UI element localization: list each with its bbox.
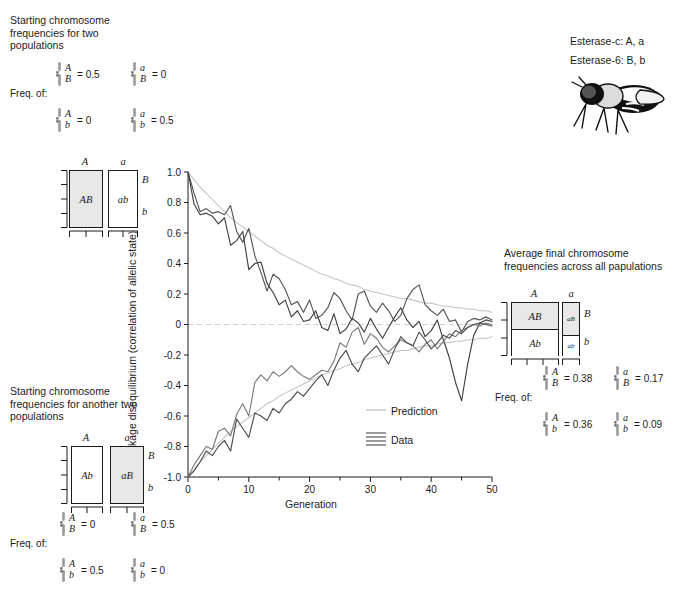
x-tick-label: 0 bbox=[185, 484, 191, 495]
allele-pair: A b bbox=[69, 559, 75, 581]
right-caption: Average final chromosome frequencies acr… bbox=[504, 247, 664, 272]
box-cell-ab: ab bbox=[563, 336, 579, 356]
chromosome-icon bbox=[614, 412, 621, 436]
allele-bottom: b bbox=[140, 570, 145, 581]
freq-value: = 0.5 bbox=[81, 565, 104, 576]
box-cell-aB: aB bbox=[110, 446, 144, 504]
y-tick-label: -0.4 bbox=[164, 380, 182, 391]
chromosome-icon bbox=[131, 558, 138, 582]
allele-pair: a B bbox=[623, 367, 629, 389]
freq-entry-aB-right: a B = 0.17 bbox=[614, 366, 663, 390]
freq-value: = 0.17 bbox=[635, 373, 663, 384]
allele-pair: a b bbox=[623, 413, 628, 435]
series-line bbox=[188, 323, 492, 477]
freq-entry-aB-bottom: a B = 0.5 bbox=[131, 512, 175, 536]
bottom-left-box-diagram: A a Ab aB B b bbox=[60, 432, 160, 518]
y-tick-label: 0 bbox=[175, 319, 181, 330]
bottom-left-freq-label: Freq. of: bbox=[10, 538, 47, 549]
allele-bottom: B bbox=[69, 524, 75, 535]
y-axis-title-text: Linkage disequilibrium (correlation of a… bbox=[126, 231, 138, 460]
series-line bbox=[188, 323, 492, 477]
box-col-header-a: a bbox=[110, 432, 144, 443]
allele-bottom: b bbox=[623, 424, 628, 435]
box-row-label-B: B bbox=[148, 450, 154, 461]
y-scale-ticks bbox=[60, 446, 68, 504]
y-scale-ticks bbox=[500, 302, 508, 356]
box-col-header-A: A bbox=[70, 432, 102, 443]
box-cell-label: aB bbox=[111, 447, 143, 503]
allele-bottom: B bbox=[140, 524, 146, 535]
series-line bbox=[188, 172, 492, 332]
allele-pair: A b bbox=[552, 413, 558, 435]
box-row-label-B: B bbox=[584, 308, 590, 319]
box-cell-Ab: Ab bbox=[71, 446, 103, 504]
chromosome-icon bbox=[60, 558, 67, 582]
freq-value: = 0.5 bbox=[152, 519, 175, 530]
freq-value: = 0 bbox=[151, 565, 165, 576]
bottom-left-caption: Starting chromosome frequencies for anot… bbox=[10, 385, 150, 423]
legend-label-data: Data bbox=[391, 434, 413, 446]
x-tick-label: 20 bbox=[304, 484, 316, 495]
box-column-a: aB ab bbox=[562, 302, 580, 356]
box-row-label-b: b bbox=[584, 336, 589, 347]
y-tick-label: 0.2 bbox=[167, 289, 181, 300]
right-freq-label: Freq. of: bbox=[495, 392, 532, 403]
x-axis-title: Generation bbox=[285, 498, 337, 510]
allele-bottom: B bbox=[552, 378, 558, 389]
allele-pair: A B bbox=[552, 367, 558, 389]
allele-pair: A B bbox=[69, 513, 75, 535]
chromosome-icon bbox=[614, 366, 621, 390]
box-col-header-a: a bbox=[562, 288, 580, 299]
y-tick-label: 1.0 bbox=[167, 167, 181, 178]
x-axis-title-text: Generation bbox=[285, 498, 337, 510]
freq-value: = 0.38 bbox=[564, 373, 592, 384]
x-scale-ticks bbox=[511, 358, 583, 366]
freq-entry-AB-bottom: A B = 0 bbox=[60, 512, 95, 536]
freq-entry-Ab-bottom: A b = 0.5 bbox=[60, 558, 104, 582]
box-cell-aB: aB bbox=[563, 303, 579, 336]
chromosome-icon bbox=[60, 512, 67, 536]
freq-value: = 0.36 bbox=[564, 419, 592, 430]
series-line bbox=[188, 172, 492, 401]
freq-entry-ab-right: a b = 0.09 bbox=[614, 412, 662, 436]
x-tick-label: 30 bbox=[365, 484, 377, 495]
y-tick-label: -0.2 bbox=[164, 350, 182, 361]
y-tick-label: -0.6 bbox=[164, 411, 182, 422]
freq-value: = 0.09 bbox=[634, 419, 662, 430]
chromosome-icon bbox=[543, 412, 550, 436]
box-row-label-b: b bbox=[148, 482, 153, 493]
chromosome-icon bbox=[543, 366, 550, 390]
allele-pair: a B bbox=[140, 513, 146, 535]
y-tick-label: -0.8 bbox=[164, 441, 182, 452]
freq-entry-ab-bottom: a b = 0 bbox=[131, 558, 165, 582]
y-tick-label: 0.8 bbox=[167, 197, 181, 208]
freq-entry-AB-right: A B = 0.38 bbox=[543, 366, 592, 390]
chromosome-icon bbox=[131, 512, 138, 536]
x-tick-label: 50 bbox=[486, 484, 498, 495]
series-line bbox=[188, 172, 492, 312]
allele-pair: a b bbox=[140, 559, 145, 581]
box-col-header-A: A bbox=[510, 288, 558, 299]
x-tick-label: 40 bbox=[426, 484, 438, 495]
box-column-A: AB Ab bbox=[511, 302, 559, 356]
y-axis-title: Linkage disequilibrium (correlation of a… bbox=[126, 231, 138, 460]
box-cell-label: Ab bbox=[72, 447, 102, 503]
x-tick-label: 10 bbox=[243, 484, 255, 495]
box-cell-Ab: Ab bbox=[512, 330, 558, 356]
allele-bottom: b bbox=[69, 570, 75, 581]
y-tick-label: 0.4 bbox=[167, 258, 181, 269]
freq-entry-Ab-right: A b = 0.36 bbox=[543, 412, 592, 436]
figure-root: Starting chromosome frequencies for two … bbox=[0, 0, 673, 607]
y-tick-label: 0.6 bbox=[167, 228, 181, 239]
right-box-diagram: A a AB Ab aB ab B b bbox=[500, 288, 610, 370]
legend-label-prediction: Prediction bbox=[391, 405, 438, 417]
y-tick-label: -1.0 bbox=[164, 472, 182, 483]
freq-value: = 0 bbox=[81, 519, 95, 530]
allele-bottom: B bbox=[623, 378, 629, 389]
box-cell-AB: AB bbox=[512, 303, 558, 330]
allele-bottom: b bbox=[552, 424, 558, 435]
